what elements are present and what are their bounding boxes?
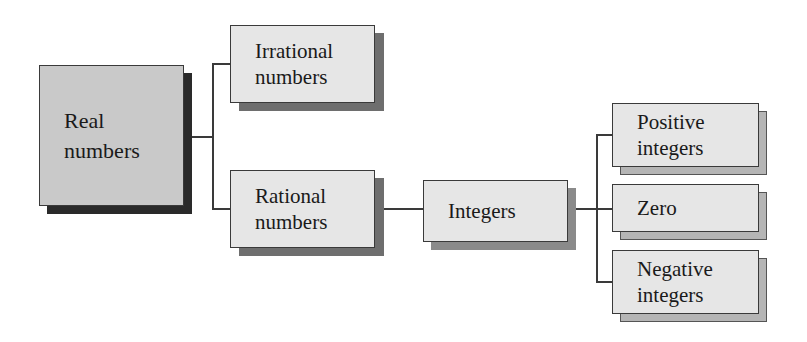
zero-node: Zero — [612, 184, 759, 232]
real-numbers-node: Real numbers — [39, 65, 184, 206]
negative-integers-node: Negative integers — [612, 250, 759, 314]
connector-to-zero — [596, 208, 612, 210]
connector-real-branch-vertical — [212, 63, 214, 209]
positive-integers-node: Positive integers — [612, 103, 759, 167]
connector-to-rational — [212, 208, 230, 210]
integers-node: Integers — [423, 180, 568, 242]
connector-to-negative — [596, 281, 612, 283]
rational-numbers-label: Rational numbers — [231, 183, 327, 235]
positive-integers-label: Positive integers — [613, 109, 705, 161]
connector-to-irrational — [212, 63, 230, 65]
real-numbers-label: Real numbers — [40, 106, 140, 166]
rational-numbers-node: Rational numbers — [230, 170, 375, 248]
irrational-numbers-node: Irrational numbers — [230, 25, 375, 103]
connector-to-positive — [596, 134, 612, 136]
irrational-numbers-label: Irrational numbers — [231, 38, 333, 90]
zero-label: Zero — [613, 195, 677, 221]
integers-label: Integers — [424, 198, 516, 224]
negative-integers-label: Negative integers — [613, 256, 713, 308]
